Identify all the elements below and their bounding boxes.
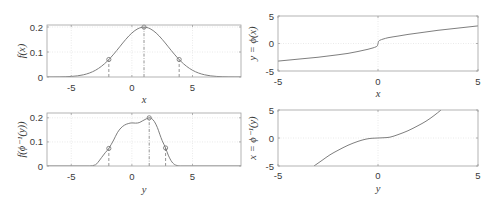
x-axis-label: y xyxy=(141,184,147,195)
y-tick-label: 0.1 xyxy=(30,47,43,58)
x-tick-label: 0 xyxy=(375,170,380,181)
x-tick-label: 5 xyxy=(190,171,195,182)
y-tick-label: 5 xyxy=(269,11,274,22)
y-tick-label: 0 xyxy=(269,38,274,49)
figure-canvas: -50500.10.2xf(x)-50500.10.2yf(ϕ⁻¹(y))-50… xyxy=(0,0,493,203)
y-axis-label: f(ϕ⁻¹(y)) xyxy=(16,121,28,158)
y-tick-label: 0.1 xyxy=(30,136,43,147)
x-tick-label: -5 xyxy=(67,171,75,182)
x-tick-label: 0 xyxy=(375,76,380,87)
y-tick-label: 0.2 xyxy=(30,22,43,33)
x-tick-label: 5 xyxy=(190,82,195,93)
y-tick-label: 5 xyxy=(269,105,274,116)
y-tick-label: 0 xyxy=(38,161,43,172)
x-tick-label: 0 xyxy=(129,82,134,93)
y-tick-label: -5 xyxy=(266,66,274,77)
x-tick-label: 0 xyxy=(129,171,134,182)
x-tick-label: -5 xyxy=(274,170,282,181)
y-tick-label: 0.2 xyxy=(30,112,43,123)
y-axis-label: f(x) xyxy=(16,43,28,58)
x-axis-label: x xyxy=(375,88,381,99)
x-axis-label: y xyxy=(375,183,381,194)
y-tick-label: -5 xyxy=(266,161,274,172)
y-axis-label: x = ϕ⁻¹(y) xyxy=(247,116,259,161)
y-tick-label: 0 xyxy=(38,72,43,83)
plot-area xyxy=(47,113,241,166)
x-tick-label: 5 xyxy=(475,170,480,181)
y-tick-label: 0 xyxy=(269,133,274,144)
x-tick-label: 5 xyxy=(475,76,480,87)
x-tick-label: -5 xyxy=(274,76,282,87)
x-axis-label: x xyxy=(141,94,147,105)
x-tick-label: -5 xyxy=(67,82,75,93)
y-axis-label: y = ϕ(x) xyxy=(247,26,259,62)
